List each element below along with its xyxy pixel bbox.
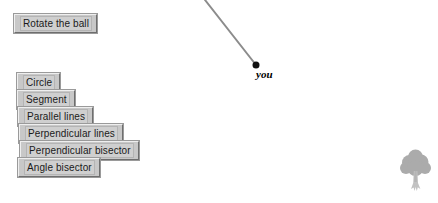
parallel-lines-tool-button-label: Parallel lines: [24, 109, 88, 124]
perpendicular-bisector-tool-button-label: Perpendicular bisector: [26, 143, 134, 158]
segment-tool-button-label: Segment: [23, 92, 70, 107]
rotate-the-ball-button-label: Rotate the ball: [20, 16, 92, 31]
you-point-label: you: [256, 68, 273, 80]
geometry-applet: you Rotate the ball Circle Segment Paral…: [0, 0, 438, 203]
tree-icon: [399, 149, 432, 193]
circle-tool-button-label: Circle: [23, 75, 55, 90]
rotate-the-ball-button[interactable]: Rotate the ball: [14, 14, 97, 33]
perpendicular-lines-tool-button-label: Perpendicular lines: [25, 126, 118, 141]
ball-radius-line: [205, 0, 256, 65]
angle-bisector-tool-button[interactable]: Angle bisector: [18, 158, 100, 177]
angle-bisector-tool-button-label: Angle bisector: [24, 160, 95, 175]
